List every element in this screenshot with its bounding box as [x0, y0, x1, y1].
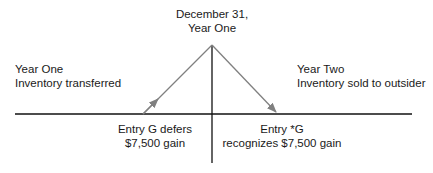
apex-label-line-1: December 31, — [172, 7, 252, 21]
entry-g-label-line-1: Entry G defers — [105, 122, 205, 136]
apex-label: December 31, Year One — [172, 7, 252, 35]
year-two-label: Year Two Inventory sold to outsider — [297, 62, 426, 90]
year-one-label-line-2: Inventory transferred — [15, 76, 121, 90]
entry-star-g-label-line-2: recognizes $7,500 gain — [222, 136, 342, 150]
year-one-label-line-1: Year One — [15, 62, 121, 76]
entry-star-g-label: Entry *G recognizes $7,500 gain — [222, 122, 342, 150]
year-one-label: Year One Inventory transferred — [15, 62, 121, 90]
entry-g-label-line-2: $7,500 gain — [105, 136, 205, 150]
entry-star-g-label-line-1: Entry *G — [222, 122, 342, 136]
apex-label-line-2: Year One — [172, 21, 252, 35]
right-arrow-icon — [212, 45, 276, 112]
entry-g-label: Entry G defers $7,500 gain — [105, 122, 205, 150]
year-two-label-line-2: Inventory sold to outsider — [297, 76, 426, 90]
left-arrow-icon — [143, 99, 158, 114]
year-two-label-line-1: Year Two — [297, 62, 426, 76]
